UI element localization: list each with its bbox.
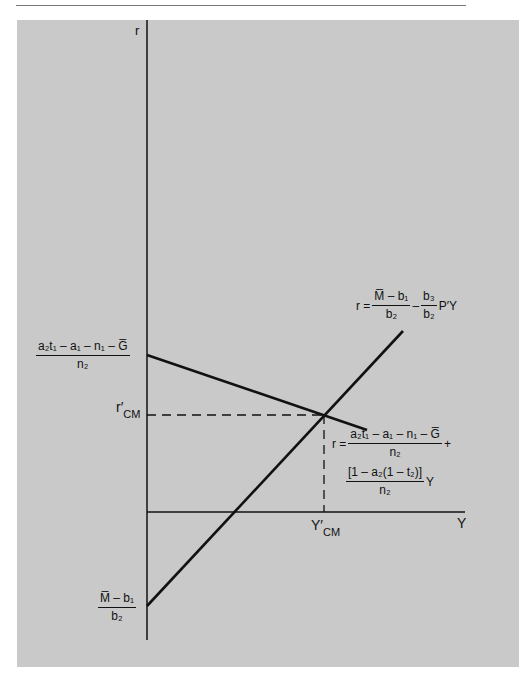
lm-eq-frac1: M̅ – b₁ b₂: [372, 290, 410, 322]
is-equation-line2: [1 – a₂(1 – t₂)] n₂ Y: [344, 466, 434, 498]
is-eq-plus: +: [444, 437, 451, 451]
lm-eq-lhs: r =: [356, 299, 370, 313]
y-cm-sub: CM: [323, 526, 340, 538]
lm-eq-tail: P′Y: [439, 299, 457, 313]
r-cm-sub: CM: [123, 408, 140, 420]
is-eq-frac1: a₂t₁ – a₁ – n₁ – G̅ n₂: [348, 428, 442, 460]
is-eq-frac2-num: [1 – a₂(1 – t₂)]: [346, 466, 424, 482]
is-eq-frac1-den: n₂: [389, 444, 400, 460]
r-cm-label: r′CM: [116, 400, 140, 420]
lm-eq-frac2: b₃ b₂: [421, 290, 437, 322]
x-axis-label: Y: [457, 516, 466, 530]
is-intercept-denominator: n₂: [77, 356, 88, 372]
lm-intercept-denominator: b₂: [111, 608, 122, 624]
lm-eq-op: –: [412, 299, 419, 313]
lm-eq-frac2-den: b₂: [423, 306, 434, 322]
lm-intercept-label: M̅ – b₁ b₂: [98, 592, 136, 624]
lm-eq-frac2-num: b₃: [421, 290, 437, 306]
is-eq-tail: Y: [426, 475, 434, 489]
is-intercept-label: a₂t₁ – a₁ – n₁ – G̅ n₂: [36, 340, 130, 372]
y-cm-main: Y′: [311, 517, 323, 533]
is-curve-line: [147, 355, 367, 430]
lm-eq-frac1-num: M̅ – b₁: [372, 290, 410, 306]
is-intercept-numerator: a₂t₁ – a₁ – n₁ – G̅: [36, 340, 130, 356]
is-equation-line1: r = a₂t₁ – a₁ – n₁ – G̅ n₂ +: [332, 428, 451, 460]
is-eq-frac2-den: n₂: [379, 482, 390, 498]
y-axis-label: r: [135, 24, 139, 37]
lm-intercept-numerator: M̅ – b₁: [98, 592, 136, 608]
is-eq-frac1-num: a₂t₁ – a₁ – n₁ – G̅: [348, 428, 442, 444]
lm-eq-frac1-den: b₂: [386, 306, 397, 322]
lm-equation: r = M̅ – b₁ b₂ – b₃ b₂ P′Y: [356, 290, 457, 322]
is-eq-lhs: r =: [332, 437, 346, 451]
is-eq-frac2: [1 – a₂(1 – t₂)] n₂: [346, 466, 424, 498]
y-cm-label: Y′CM: [311, 518, 340, 538]
